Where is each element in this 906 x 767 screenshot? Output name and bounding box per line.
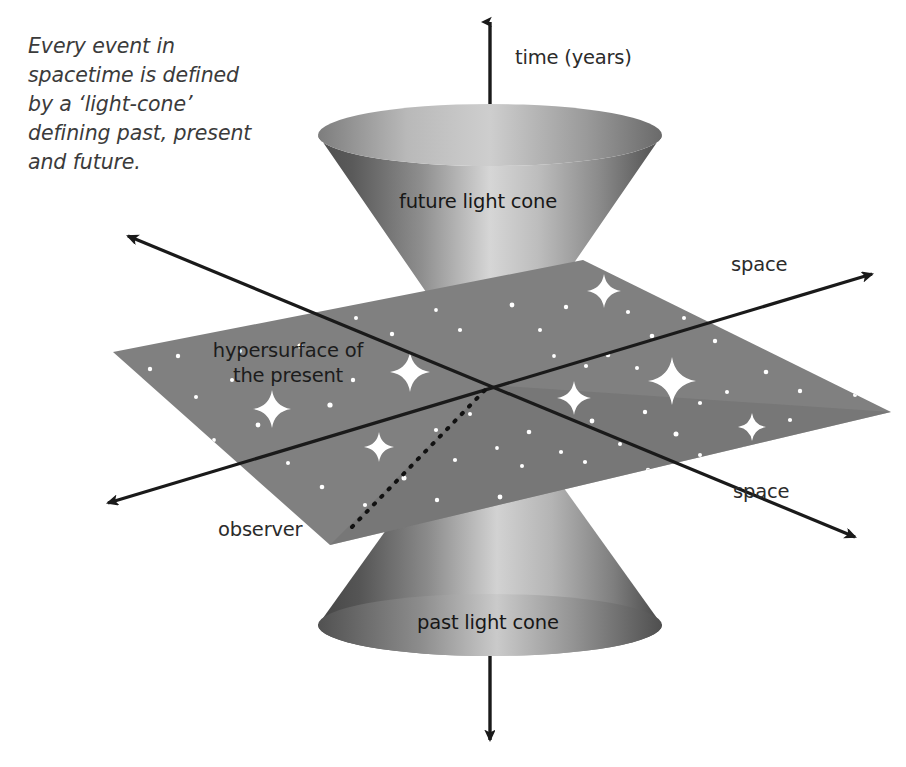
space-axis-label-upper-right: space <box>731 253 787 276</box>
star-dot <box>682 316 686 320</box>
star-dot <box>635 366 639 370</box>
star-dot <box>853 393 857 397</box>
star-dot <box>286 461 290 465</box>
star-dot <box>256 423 261 428</box>
star-dot <box>725 390 729 394</box>
star-dot <box>618 442 622 446</box>
star-core <box>741 470 747 476</box>
star-core <box>572 396 576 400</box>
star-dot <box>590 419 595 424</box>
star-dot <box>564 305 568 309</box>
star-core <box>669 378 675 384</box>
star-dot <box>320 485 325 490</box>
star-dot <box>552 354 556 358</box>
hypersurface-label-line2: the present <box>233 364 343 387</box>
star-dot <box>604 485 608 489</box>
star-core <box>270 407 275 412</box>
star-dot <box>434 428 438 432</box>
star-dot <box>327 402 332 407</box>
hypersurface-label-line1: hypersurface of <box>213 339 363 362</box>
star-dot <box>764 370 769 375</box>
star-dot <box>698 401 702 405</box>
future-cone-rim <box>318 104 662 166</box>
star-dot <box>527 430 532 435</box>
past-light-cone-label: past light cone <box>417 611 559 634</box>
star-dot <box>713 339 717 343</box>
star-dot <box>824 366 828 370</box>
space-axis-label-lower-right: space <box>733 480 789 503</box>
star-dot <box>468 412 472 416</box>
star-dot <box>643 410 647 414</box>
hypersurface-label: hypersurface ofthe present <box>199 339 377 389</box>
star-dot <box>520 464 524 468</box>
star-dot <box>650 334 655 339</box>
star-dot <box>698 453 702 457</box>
star-dot <box>538 328 542 332</box>
star-core <box>750 425 753 428</box>
star-dot <box>435 498 439 502</box>
star-dot <box>584 364 588 368</box>
star-dot <box>148 367 152 371</box>
star-dot <box>390 332 394 336</box>
star-dot <box>453 458 457 462</box>
star-dot <box>583 460 587 464</box>
star-dot <box>434 308 438 312</box>
star-core <box>408 370 413 375</box>
star-dot <box>755 323 759 327</box>
star-core <box>602 289 606 293</box>
star-dot <box>626 310 630 314</box>
star-dot <box>402 476 407 481</box>
star-dot <box>646 468 650 472</box>
star-dot <box>176 354 180 358</box>
star-dot <box>788 418 792 422</box>
star-dot <box>212 438 216 442</box>
star-dot <box>495 446 499 450</box>
time-axis-label: time (years) <box>515 46 632 69</box>
star-dot <box>798 389 802 393</box>
star-core <box>377 445 381 449</box>
star-dot <box>559 450 563 454</box>
star-dot <box>354 316 358 320</box>
figure-caption: Every event in spacetime is defined by a… <box>28 32 278 178</box>
star-dot <box>194 395 198 399</box>
star-dot <box>363 503 367 507</box>
star-dot <box>498 495 503 500</box>
star-dot <box>674 432 679 437</box>
future-light-cone-label: future light cone <box>399 190 557 213</box>
star-dot <box>788 338 793 343</box>
observer-label: observer <box>218 518 302 541</box>
